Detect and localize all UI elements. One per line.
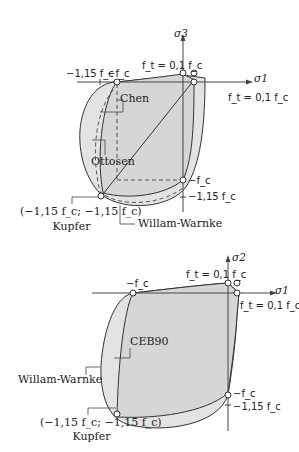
callout-willam-warnke: Willam-Warnke [138, 218, 222, 230]
axis-label-sigma1-bottom: σ1 [275, 284, 289, 296]
failure-surface-diagram-sigma1-sigma3: σ3 σ1 f_t = 0,1 f_c f_t = 0,1 f_c −1,15 … [0, 0, 299, 235]
label-neg-fc-top: −f_c [107, 68, 129, 80]
label-neg-115fc-right-bottom: −1,15 f_c [233, 401, 281, 413]
point-ft-right [191, 79, 197, 85]
axis-sigma2-arrow-icon [226, 255, 231, 262]
label-ft-right: f_t = 0,1 f_c [228, 92, 288, 104]
label-neg-fc-right: −f_c [188, 175, 210, 187]
callout-kupfer: Kupfer [44, 221, 99, 233]
point-neg-fc-right [180, 177, 186, 183]
axis-label-sigma3: σ3 [174, 27, 188, 39]
callout-ottosen: Ottosen [91, 156, 135, 168]
ceb90-envelope [117, 283, 239, 417]
label-neg-115fc-right: −1,15 f_c [188, 191, 236, 203]
callout-kupfer-coords: (−1,15 f_c; −1,15 f_c) [20, 206, 142, 218]
axis-label-sigma1: σ1 [254, 72, 268, 84]
axis-label-sigma2: σ2 [232, 251, 246, 263]
label-ft-right-bottom: f_t = 0,1 f_c [240, 300, 299, 312]
label-ft-top-bottom: f_t = 0,1 f_c [186, 269, 246, 281]
axis-sigma1-arrow-icon [246, 80, 253, 85]
point-neg-fc-top-bottom [130, 290, 136, 296]
point-kupfer [98, 193, 104, 199]
callout-chen: Chen [120, 93, 149, 105]
callout-willam-warnke-bottom: Willam-Warnke [18, 374, 102, 386]
callout-kupfer-coords-bottom: (−1,15 f_c; −1,15 f_c) [40, 417, 162, 429]
point-neg-fc-right-bottom [225, 392, 231, 398]
failure-surface-plot-top [0, 0, 299, 235]
callout-ceb90: CEB90 [130, 336, 169, 348]
label-neg-fc-top-bottom: −f_c [126, 278, 148, 290]
callout-kupfer-bottom: Kupfer [64, 431, 119, 443]
point-ft-right-bottom [234, 290, 240, 296]
failure-surface-diagram-sigma1-sigma2: σ2 σ1 f_t = 0,1 f_c f_t = 0,1 f_c −f_c −… [0, 235, 299, 452]
label-neg-fc-right-bottom: −f_c [233, 388, 255, 400]
label-ft-top: f_t = 0,1 f_c [142, 60, 202, 72]
